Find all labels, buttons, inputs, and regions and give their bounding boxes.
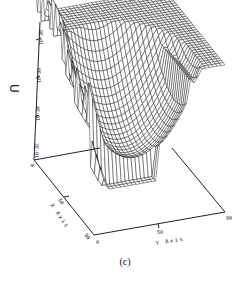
y-tick-label-50: 50 [157, 229, 163, 235]
z-tick-label-6: 6E-01 [36, 68, 42, 83]
y-tick-label-0: 0 [96, 239, 99, 245]
figure-caption: (c) [0, 256, 250, 267]
y-axis-title: Y Axis [155, 236, 184, 246]
right-edge-line [172, 148, 225, 212]
z-tick-label-2: 2E-01 [34, 143, 40, 158]
x-tick-label-0: 0 [29, 162, 36, 168]
z-axis-title: U [7, 84, 21, 93]
y-tick [158, 224, 159, 228]
surface-plot: 8E-01 6E-01 4E-01 2E-01 U 0 50 99 X Axis… [0, 0, 250, 286]
y-tick-label-99: 99 [226, 215, 232, 221]
surface-mesh [34, 0, 225, 189]
z-tick-label-4: 4E-01 [35, 106, 41, 121]
x-tick [64, 196, 69, 197]
x-axis-title: X Axis [49, 202, 70, 229]
z-tick-label-8: 8E-01 [38, 30, 44, 45]
x-tick-label-99: 99 [83, 232, 91, 240]
